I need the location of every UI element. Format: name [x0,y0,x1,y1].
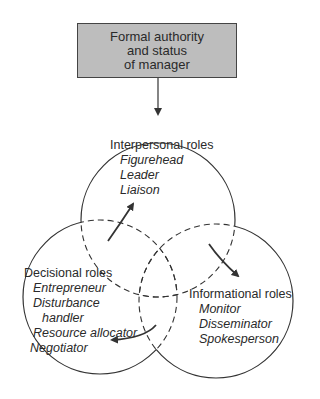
interpersonal-title: Interpersonal roles [110,138,214,152]
role-disseminator: Disseminator [189,317,292,332]
decisional-roles-label: Decisional roles Entrepreneur Disturbanc… [24,266,137,356]
box-line-2: and status [127,44,187,58]
formal-authority-box: Formal authority and status of manager [77,23,237,78]
role-handler: handler [24,311,137,326]
role-monitor: Monitor [189,302,292,317]
role-figurehead: Figurehead [110,153,214,168]
decisional-title: Decisional roles [24,266,112,280]
role-negotiator: Negotiator [24,341,137,356]
role-leader: Leader [110,168,214,183]
informational-roles-label: Informational roles Monitor Disseminator… [189,287,292,347]
arrow-decisional-to-interpersonal [108,204,133,241]
role-liaison: Liaison [110,183,214,198]
interpersonal-roles-label: Interpersonal roles Figurehead Leader Li… [110,138,214,198]
box-line-3: of manager [124,58,190,72]
role-resource-allocator: Resource allocator [24,326,137,341]
role-disturbance: Disturbance [24,296,137,311]
role-entrepreneur: Entrepreneur [24,281,137,296]
role-spokesperson: Spokesperson [189,332,292,347]
informational-title: Informational roles [189,287,292,301]
box-line-1: Formal authority [110,30,204,44]
